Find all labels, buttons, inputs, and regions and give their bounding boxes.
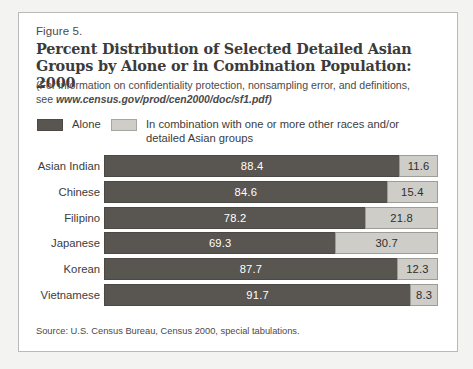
figure-panel: Figure 5. Percent Distribution of Select… bbox=[18, 12, 458, 352]
chart-row: Filipino78.221.8 bbox=[19, 207, 459, 229]
stacked-bar-chart: Asian Indian88.411.6Chinese84.615.4Filip… bbox=[19, 155, 459, 315]
category-label: Chinese bbox=[19, 181, 100, 203]
legend-item-combination: In combination with one or more other ra… bbox=[111, 117, 399, 145]
bar-value-combination: 21.8 bbox=[390, 212, 413, 224]
bar-value-alone: 78.2 bbox=[224, 212, 247, 224]
bar-segment-alone: 88.4 bbox=[104, 155, 399, 177]
category-label: Korean bbox=[19, 258, 100, 280]
bar-segment-combination: 15.4 bbox=[387, 181, 438, 203]
figure-note-url: www.census.gov/prod/cen2000/doc/sf1.pdf) bbox=[56, 94, 272, 105]
bar-value-alone: 87.7 bbox=[240, 263, 263, 275]
legend-swatch-combination-icon bbox=[111, 119, 137, 131]
bar-segment-alone: 78.2 bbox=[104, 207, 365, 229]
category-label: Asian Indian bbox=[19, 155, 100, 177]
bar-value-combination: 15.4 bbox=[401, 186, 424, 198]
bar-track: 91.78.3 bbox=[104, 284, 438, 306]
bar-segment-combination: 21.8 bbox=[365, 207, 438, 229]
category-label: Japanese bbox=[19, 232, 100, 254]
chart-row: Asian Indian88.411.6 bbox=[19, 155, 459, 177]
bar-segment-combination: 8.3 bbox=[410, 284, 438, 306]
legend-label-combination: In combination with one or more other ra… bbox=[146, 117, 399, 145]
figure-note: (For information on confidentiality prot… bbox=[36, 79, 441, 106]
legend-swatch-alone-icon bbox=[37, 119, 63, 131]
bar-value-combination: 30.7 bbox=[375, 237, 398, 249]
legend-label-alone: Alone bbox=[72, 117, 101, 131]
bar-value-alone: 91.7 bbox=[246, 289, 269, 301]
bar-segment-alone: 87.7 bbox=[104, 258, 397, 280]
bar-segment-alone: 69.3 bbox=[104, 232, 335, 254]
bar-track: 88.411.6 bbox=[104, 155, 438, 177]
chart-row: Chinese84.615.4 bbox=[19, 181, 459, 203]
bar-track: 69.330.7 bbox=[104, 232, 438, 254]
bar-segment-combination: 12.3 bbox=[397, 258, 438, 280]
chart-row: Korean87.712.3 bbox=[19, 258, 459, 280]
bar-value-alone: 69.3 bbox=[209, 237, 232, 249]
category-label: Vietnamese bbox=[19, 284, 100, 306]
figure-note-prefix: see bbox=[36, 93, 56, 105]
bar-value-alone: 88.4 bbox=[241, 160, 264, 172]
figure-note-line1: (For information on confidentiality prot… bbox=[36, 79, 410, 91]
bar-segment-alone: 91.7 bbox=[104, 284, 410, 306]
bar-track: 78.221.8 bbox=[104, 207, 438, 229]
bar-segment-alone: 84.6 bbox=[104, 181, 387, 203]
legend-item-alone: Alone bbox=[37, 117, 101, 131]
category-label: Filipino bbox=[19, 207, 100, 229]
figure-number: Figure 5. bbox=[36, 25, 82, 37]
chart-row: Japanese69.330.7 bbox=[19, 232, 459, 254]
bar-track: 84.615.4 bbox=[104, 181, 438, 203]
chart-legend: Alone In combination with one or more ot… bbox=[36, 117, 446, 147]
bar-value-combination: 8.3 bbox=[416, 289, 432, 301]
bar-value-combination: 11.6 bbox=[408, 160, 430, 172]
source-note: Source: U.S. Census Bureau, Census 2000,… bbox=[36, 326, 300, 336]
bar-value-alone: 84.6 bbox=[234, 186, 257, 198]
bar-segment-combination: 30.7 bbox=[335, 232, 438, 254]
bar-value-combination: 12.3 bbox=[406, 263, 429, 275]
chart-row: Vietnamese91.78.3 bbox=[19, 284, 459, 306]
bar-track: 87.712.3 bbox=[104, 258, 438, 280]
bar-segment-combination: 11.6 bbox=[399, 155, 438, 177]
